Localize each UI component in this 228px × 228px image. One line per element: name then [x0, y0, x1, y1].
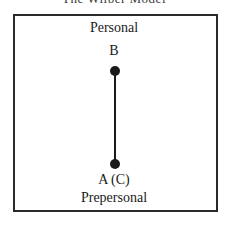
point-a-dot: [110, 159, 120, 169]
point-b-dot: [110, 66, 120, 76]
prepersonal-label: Prepersonal: [0, 190, 228, 206]
point-a-label: A (C): [0, 172, 228, 188]
